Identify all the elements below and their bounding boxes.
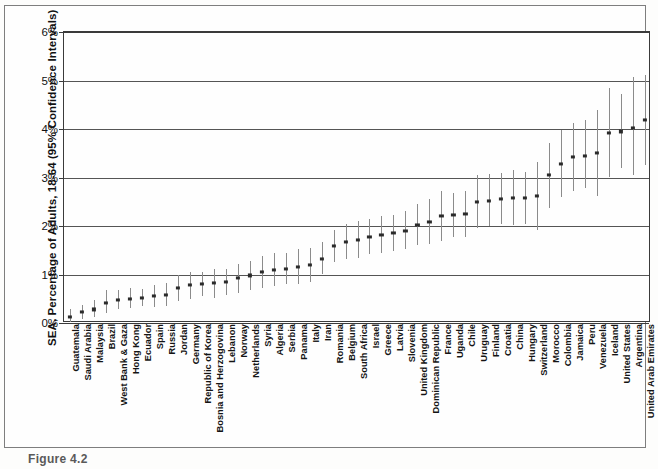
data-point-marker (439, 215, 443, 218)
data-point-marker (523, 196, 527, 199)
data-point-marker (176, 287, 180, 290)
y-tick-label: 5% (41, 75, 58, 87)
x-axis-label: West Bank & Gaza (120, 324, 129, 405)
data-point-marker (104, 301, 108, 304)
y-tick-label: 0% (41, 317, 58, 329)
data-point-marker (307, 263, 311, 266)
x-axis-label: South Africa (360, 324, 369, 379)
x-axis-label: Colombia (564, 324, 573, 366)
data-point-marker (571, 156, 575, 159)
x-axis-label: Greece (384, 324, 393, 356)
x-axis-label: Jamaica (576, 324, 585, 361)
x-axis-label: Serbia (288, 324, 297, 352)
x-axis-label: Panama (300, 324, 309, 360)
x-axis-label: Chile (468, 324, 477, 347)
data-point-marker (403, 229, 407, 232)
data-point-marker (200, 283, 204, 286)
data-point-marker (152, 295, 156, 298)
x-axis-label: Jordan (180, 324, 189, 355)
data-point-marker (595, 152, 599, 155)
data-point-marker (463, 212, 467, 215)
data-point-marker (367, 235, 371, 238)
data-point-marker (427, 221, 431, 224)
figure-container: SEA, Percentage of Adults, 18-64 (95% Co… (0, 0, 658, 469)
data-point-marker (415, 223, 419, 226)
data-point-marker (475, 200, 479, 203)
x-axis-label: Slovenia (408, 324, 417, 362)
data-point-marker (583, 154, 587, 157)
x-axis-label: Algeria (276, 324, 285, 356)
data-point-marker (607, 131, 611, 134)
data-point-marker (631, 126, 635, 129)
x-axis-label: Syria (264, 324, 273, 347)
x-axis-label: Belgium (348, 324, 357, 361)
x-axis-label: United Arab Emirates (647, 324, 656, 418)
data-point-marker (547, 174, 551, 177)
x-axis-label: Iran (324, 324, 333, 341)
data-point-marker (343, 240, 347, 243)
x-axis-label: Spain (156, 324, 165, 349)
x-axis-label: Russia (168, 324, 177, 355)
x-axis-label: Latvia (396, 324, 405, 351)
data-point-marker (643, 119, 647, 122)
data-point-marker (355, 238, 359, 241)
x-axis-label: Uruguay (480, 324, 489, 362)
x-axis-label: Italy (312, 324, 321, 343)
plot-area: 0%1%2%3%4%5%6% (63, 31, 650, 322)
y-tick-mark (59, 178, 64, 179)
data-point-marker (236, 277, 240, 280)
data-point-marker (331, 245, 335, 248)
x-axis-label: Switzerland (540, 324, 549, 376)
x-axis-label: Ecuador (144, 324, 153, 361)
data-point-marker (188, 284, 192, 287)
x-axis-label: Guatemala (72, 324, 81, 372)
y-tick-mark (59, 129, 64, 130)
x-axis-label: United Kingdom (420, 324, 429, 396)
gridline-1 (64, 275, 649, 276)
data-point-marker (559, 162, 563, 165)
y-tick-mark (59, 275, 64, 276)
data-point-marker (619, 130, 623, 133)
data-point-marker (116, 299, 120, 302)
x-axis-label: Uganda (456, 324, 465, 358)
x-axis-category-labels: GuatemalaSaudi ArabiaMalaysiaBrazilWest … (63, 324, 650, 464)
y-tick-label: 4% (41, 123, 58, 135)
data-point-marker (319, 257, 323, 260)
gridline-5 (64, 81, 649, 82)
data-point-marker (499, 198, 503, 201)
data-point-marker (487, 199, 491, 202)
x-axis-label: Lebanon (228, 324, 237, 363)
x-axis-label: Brazil (108, 324, 117, 349)
data-point-marker (224, 280, 228, 283)
x-axis-label: Peru (588, 324, 597, 345)
data-point-marker (164, 293, 168, 296)
x-axis-label: China (516, 324, 525, 350)
data-point-marker (296, 266, 300, 269)
x-axis-label: France (444, 324, 453, 355)
y-tick-mark (59, 32, 64, 33)
data-point-marker (80, 311, 84, 314)
data-point-marker (260, 271, 264, 274)
figure-caption: Figure 4.2 (28, 452, 88, 466)
x-axis-label: Bosnia and Herzogovina (216, 324, 225, 432)
data-point-marker (140, 296, 144, 299)
x-axis-label: Dominican Republic (432, 324, 441, 413)
x-axis-label: Hong Kong (132, 324, 141, 374)
data-point-marker (391, 232, 395, 235)
data-point-marker (212, 282, 216, 285)
data-point-marker (248, 274, 252, 277)
x-axis-label: Croatia (504, 324, 513, 356)
y-tick-label: 2% (41, 220, 58, 232)
x-axis-label: Israel (372, 324, 381, 348)
x-axis-label: Norway (240, 324, 249, 358)
gridline-2 (64, 226, 649, 227)
x-axis-label: Finland (492, 324, 501, 357)
data-point-marker (272, 268, 276, 271)
data-point-marker (535, 194, 539, 197)
x-axis-label: Malaysia (96, 324, 105, 363)
x-axis-label: Romania (336, 324, 345, 363)
y-tick-mark (59, 226, 64, 227)
data-point-marker (128, 297, 132, 300)
x-axis-label: United States (623, 324, 632, 383)
y-tick-label: 3% (41, 172, 58, 184)
